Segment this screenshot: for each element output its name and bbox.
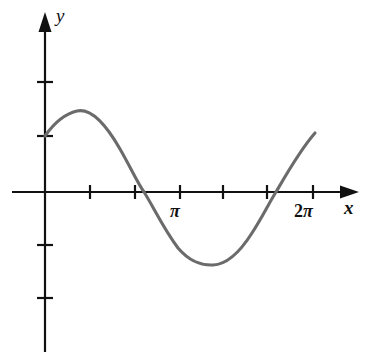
y-axis-arrowhead (39, 12, 52, 32)
x-axis-label: x (344, 198, 354, 217)
sine-graph-figure: y x π 2π (0, 0, 365, 360)
coordinate-plot (0, 0, 365, 360)
two-pi-coefficient: 2 (294, 201, 303, 221)
x-tick-label-2pi: 2π (294, 202, 313, 220)
y-axis-label: y (56, 6, 64, 25)
x-tick-label-pi: π (170, 202, 180, 220)
two-pi-symbol: π (303, 201, 313, 221)
